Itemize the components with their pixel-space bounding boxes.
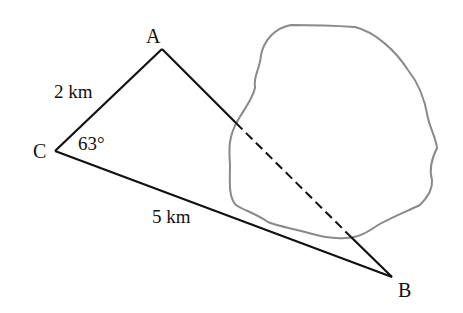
side-label-cb: 5 km xyxy=(152,206,191,227)
lake-obstacle xyxy=(229,25,437,238)
vertex-label-a: A xyxy=(146,25,161,47)
side-ab-dashed xyxy=(236,123,351,237)
side-ab-solid-top xyxy=(162,49,236,123)
side-label-ca: 2 km xyxy=(54,81,93,102)
side-ab-solid-bottom xyxy=(351,237,392,277)
vertex-label-b: B xyxy=(398,279,411,301)
vertex-label-c: C xyxy=(33,140,46,162)
angle-label-c: 63° xyxy=(78,133,105,154)
side-cb xyxy=(55,151,392,277)
triangle-diagram: A B C 2 km 5 km 63° xyxy=(0,0,463,313)
